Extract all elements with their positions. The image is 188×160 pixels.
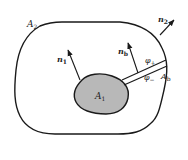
normal-nb-arrow <box>128 43 138 73</box>
label-n2: n2 <box>158 14 168 25</box>
normal-n1-arrow <box>68 50 80 80</box>
label-n1: n1 <box>57 54 67 65</box>
label-a2: A2 <box>26 19 38 30</box>
label-nb: nb <box>118 46 128 57</box>
label-phi-minus: φ− <box>144 73 155 83</box>
label-ab: Ab <box>160 72 171 82</box>
region-diagram: A2 A1 Ab n1 n2 nb φ+ φ− <box>0 0 188 160</box>
label-phi-plus: φ+ <box>145 56 156 66</box>
